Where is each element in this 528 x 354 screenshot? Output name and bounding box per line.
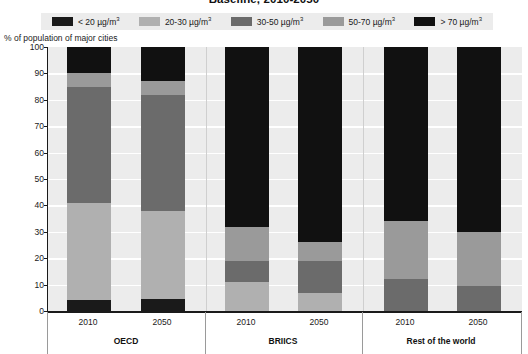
x-axis-year-label: 2050 <box>310 317 329 327</box>
x-axis-year-label: 2050 <box>153 317 172 327</box>
group-separator <box>206 47 207 311</box>
bar-segment <box>141 211 185 299</box>
chart-legend: < 20 µg/m320-30 µg/m330-50 µg/m350-70 µg… <box>41 13 493 30</box>
y-axis-tick <box>44 205 48 206</box>
bar-segment <box>298 293 342 311</box>
bar-segment <box>298 242 342 260</box>
y-axis-tick <box>44 126 48 127</box>
bar-segment <box>384 221 428 279</box>
y-axis-tick <box>44 100 48 101</box>
x-axis-year-label: 2010 <box>237 317 256 327</box>
gridline <box>48 73 522 74</box>
bar-segment <box>67 47 111 73</box>
gridline <box>48 258 522 259</box>
x-axis-group-label: OECD <box>114 336 139 346</box>
legend-unit-exponent: 3 <box>116 16 119 22</box>
bar-segment <box>225 261 269 282</box>
x-axis-zone: 201020502010205020102050OECDBRIICSRest o… <box>0 312 528 354</box>
y-axis-tick-label: 50 <box>4 174 44 184</box>
bar-segment <box>67 300 111 311</box>
bar-segment <box>457 47 501 232</box>
y-axis-tick <box>44 258 48 259</box>
legend-item-label: 30-50 µg/m3 <box>257 17 304 27</box>
legend-item: 20-30 µg/m3 <box>139 17 212 27</box>
bar-segment <box>298 47 342 242</box>
x-axis-group-label: BRIICS <box>269 336 298 346</box>
gridline <box>48 126 522 127</box>
legend-swatch-icon <box>323 17 344 26</box>
x-axis-year-label: 2050 <box>469 317 488 327</box>
bar-segment <box>141 95 185 211</box>
y-axis-tick <box>44 47 48 48</box>
x-axis-year-label: 2010 <box>396 317 415 327</box>
legend-unit-exponent: 3 <box>208 16 211 22</box>
legend-swatch-icon <box>231 17 252 26</box>
x-axis-group-divider <box>47 312 48 354</box>
y-axis-tick-label: 60 <box>4 148 44 158</box>
plot-area <box>47 47 522 312</box>
y-axis-tick-labels: 0102030405060708090100 <box>0 47 44 311</box>
bar-segment <box>141 47 185 81</box>
bar-segment <box>384 47 428 221</box>
y-axis-tick-label: 30 <box>4 227 44 237</box>
bar-segment <box>225 227 269 261</box>
bar-stack <box>225 47 269 311</box>
legend-item-label: 50-70 µg/m3 <box>349 17 396 27</box>
x-axis-group-divider <box>362 312 363 354</box>
bar-stack <box>457 47 501 311</box>
y-axis-tick <box>44 179 48 180</box>
legend-swatch-icon <box>139 17 160 26</box>
gridline <box>48 179 522 180</box>
bar-stack <box>67 47 111 311</box>
x-axis-group-label: Rest of the world <box>407 336 476 346</box>
chart-title: Baseline, 2010-2050 <box>0 0 528 5</box>
legend-item-label: < 20 µg/m3 <box>78 17 120 27</box>
y-axis-tick-label: 90 <box>4 68 44 78</box>
legend-swatch-icon <box>414 17 435 26</box>
x-axis-group-divider <box>205 312 206 354</box>
gridline <box>48 153 522 154</box>
bar-segment <box>225 282 269 311</box>
legend-item: < 20 µg/m3 <box>52 17 120 27</box>
y-axis-tick-label: 80 <box>4 95 44 105</box>
y-axis-tick-label: 100 <box>4 42 44 52</box>
y-axis-tick <box>44 73 48 74</box>
legend-unit-exponent: 3 <box>392 16 395 22</box>
legend-item: 30-50 µg/m3 <box>231 17 304 27</box>
x-axis-line <box>47 312 521 313</box>
legend-unit-exponent: 3 <box>479 16 482 22</box>
legend-swatch-icon <box>52 17 73 26</box>
y-axis-tick-label: 70 <box>4 121 44 131</box>
bar-segment <box>67 87 111 203</box>
bar-segment <box>384 279 428 311</box>
x-axis-year-label: 2010 <box>79 317 98 327</box>
bar-segment <box>298 261 342 293</box>
bar-stack <box>384 47 428 311</box>
y-axis-tick <box>44 285 48 286</box>
legend-item-label: 20-30 µg/m3 <box>165 17 212 27</box>
legend-item-label: > 70 µg/m3 <box>440 17 482 27</box>
bar-segment <box>225 47 269 227</box>
bar-segment <box>457 232 501 286</box>
group-separator <box>363 47 364 311</box>
y-axis-tick-label: 10 <box>4 280 44 290</box>
x-axis-group-divider <box>521 312 522 354</box>
y-axis-tick <box>44 232 48 233</box>
chart-container: Baseline, 2010-2050 < 20 µg/m320-30 µg/m… <box>0 0 528 354</box>
legend-item: 50-70 µg/m3 <box>323 17 396 27</box>
y-axis-tick <box>44 153 48 154</box>
bar-segment <box>141 81 185 94</box>
legend-unit-exponent: 3 <box>300 16 303 22</box>
bar-segment <box>67 203 111 301</box>
y-axis-tick-label: 40 <box>4 200 44 210</box>
gridline <box>48 100 522 101</box>
bar-segment <box>67 73 111 86</box>
gridline <box>48 232 522 233</box>
bar-segment <box>457 286 501 311</box>
bar-segment <box>141 299 185 311</box>
gridline <box>48 285 522 286</box>
bar-stack <box>298 47 342 311</box>
bar-stack <box>141 47 185 311</box>
gridline <box>48 205 522 206</box>
y-axis-tick-label: 20 <box>4 253 44 263</box>
